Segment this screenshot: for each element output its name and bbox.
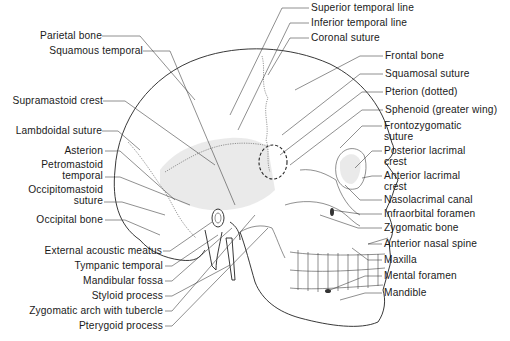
label-coronal-suture: Coronal suture — [311, 32, 380, 43]
label-pterion-dotted: Pterion (dotted) — [385, 86, 458, 97]
label-mental-foramen: Mental foramen — [384, 270, 457, 281]
label-zygomatic-arch-with-tubercle: Zygomatic arch with tubercle — [0, 305, 163, 316]
label-squamous-temporal: Squamous temporal — [40, 45, 143, 56]
label-frontal-bone: Frontal bone — [385, 50, 444, 61]
label-nasolacrimal-canal: Nasolacrimal canal — [384, 194, 473, 205]
mental-foramen-mark — [325, 289, 331, 293]
label-petromastoid-temporal: Petromastoid temporal — [20, 159, 103, 181]
label-maxilla: Maxilla — [384, 254, 417, 265]
label-sphenoid-greater-wing: Sphenoid (greater wing) — [385, 104, 497, 115]
label-occipital-bone: Occipital bone — [10, 214, 103, 225]
label-mandibular-fossa: Mandibular fossa — [30, 275, 163, 286]
skull-diagram: Parietal bone Squamous temporal Supramas… — [0, 0, 510, 341]
label-lambdoidal-suture: Lambdoidal suture — [0, 125, 102, 136]
label-styloid-process: Styloid process — [30, 290, 163, 301]
label-inferior-temporal-line: Inferior temporal line — [311, 17, 407, 28]
label-anterior-lacrimal-crest: Anterior lacrimal crest — [384, 170, 460, 192]
label-infraorbital-foramen: Infraorbital foramen — [384, 208, 475, 219]
ear-canal — [212, 209, 224, 227]
label-supramastoid-crest: Supramastoid crest — [0, 95, 103, 106]
label-zygomatic-bone: Zygomatic bone — [384, 222, 459, 233]
label-tympanic-temporal: Tympanic temporal — [30, 260, 163, 271]
label-asterion: Asterion — [40, 145, 103, 156]
label-posterior-lacrimal-crest: Posterior lacrimal crest — [384, 145, 465, 167]
label-frontozygomatic-suture: Frontozygomatic suture — [384, 120, 462, 142]
label-parietal-bone: Parietal bone — [38, 30, 102, 41]
label-occipitomastoid-suture: Occipitomastoid suture — [10, 184, 103, 206]
label-squamosal-suture: Squamosal suture — [385, 68, 470, 79]
label-pterygoid-process: Pterygoid process — [30, 320, 163, 331]
label-mandible: Mandible — [384, 287, 427, 298]
label-external-acoustic-meatus: External acoustic meatus — [10, 245, 162, 256]
label-superior-temporal-line: Superior temporal line — [311, 2, 414, 13]
styloid-process-shape — [226, 238, 235, 280]
mandible-outline — [240, 232, 390, 326]
teeth — [290, 250, 385, 292]
label-anterior-nasal-spine: Anterior nasal spine — [384, 238, 477, 249]
